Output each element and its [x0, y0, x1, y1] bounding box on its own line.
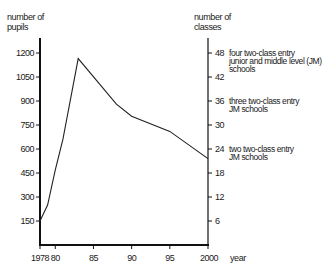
y-axis-title-line1: number of	[7, 12, 45, 22]
y-axis-title-line2: pupils	[7, 22, 29, 32]
x-tick-label: 90	[127, 253, 137, 263]
y2-tick-label: 12	[215, 192, 225, 202]
annotation-text: JM schools	[229, 104, 268, 114]
y-tick-label: 1050	[16, 72, 35, 82]
y2-tick-label: 36	[215, 96, 225, 106]
x-axis-title: year	[230, 253, 246, 263]
y-tick-label: 750	[20, 120, 34, 130]
y2-axis-ticks: 612182430364248	[208, 48, 225, 226]
annotation-text: JM schools	[229, 152, 268, 162]
x-axis-ticks: 1978808590952000	[31, 245, 219, 263]
y2-tick-label: 6	[215, 216, 220, 226]
y2-axis-title-line1: number of	[194, 12, 232, 22]
pupils-series-line	[40, 59, 208, 221]
y2-tick-label: 18	[215, 168, 225, 178]
y2-tick-label: 42	[215, 72, 225, 82]
x-tick-label: 1978	[31, 253, 50, 263]
x-tick-label: 80	[51, 253, 61, 263]
x-tick-label: 95	[165, 253, 175, 263]
line-chart: number of pupils number of classes 15030…	[0, 0, 322, 272]
y-tick-label: 300	[20, 192, 34, 202]
y2-tick-label: 24	[215, 144, 225, 154]
y2-axis-title-line2: classes	[194, 22, 222, 32]
y-tick-label: 150	[20, 216, 34, 226]
x-tick-label: 85	[89, 253, 99, 263]
y-tick-label: 450	[20, 168, 34, 178]
y-axis-ticks: 15030045060075090010501200	[16, 48, 40, 226]
x-tick-label: 2000	[200, 253, 219, 263]
annotation-text: schools	[229, 64, 255, 74]
y2-tick-label: 48	[215, 48, 225, 58]
y-tick-label: 600	[20, 144, 34, 154]
y2-tick-label: 30	[215, 120, 225, 130]
y-tick-label: 1200	[16, 48, 35, 58]
annotations: four two-class entryjunior and middle le…	[228, 48, 322, 162]
y-tick-label: 900	[20, 96, 34, 106]
